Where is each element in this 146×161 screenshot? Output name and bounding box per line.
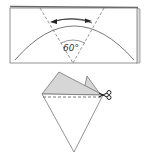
angle-label: 60° xyxy=(63,43,79,53)
step2-cone xyxy=(42,72,111,152)
cone-body xyxy=(42,94,103,152)
paper-rectangle xyxy=(10,8,137,63)
front-flap xyxy=(42,72,103,95)
step1-folded-rectangle xyxy=(10,7,140,64)
top-edge xyxy=(10,7,138,8)
origami-diagram: 60° xyxy=(0,0,146,161)
